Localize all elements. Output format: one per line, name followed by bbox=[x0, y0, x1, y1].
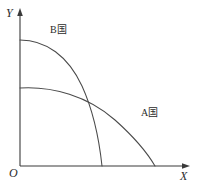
y-axis-arrow-icon bbox=[17, 8, 23, 16]
y-axis-label: Y bbox=[6, 7, 13, 19]
curve-label-b: B国 bbox=[50, 25, 67, 35]
x-axis-arrow-icon bbox=[182, 163, 190, 169]
ppf-diagram: Y X O B国 A国 bbox=[0, 0, 199, 188]
x-axis-label: X bbox=[180, 170, 187, 182]
diagram-canvas bbox=[0, 0, 199, 188]
curve-label-a: A国 bbox=[141, 108, 158, 118]
origin-label: O bbox=[9, 167, 18, 179]
